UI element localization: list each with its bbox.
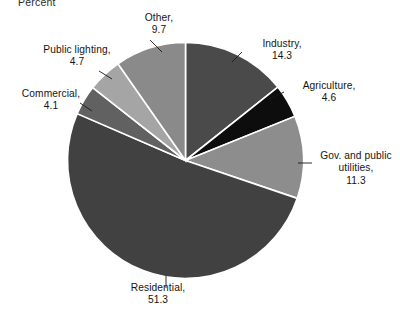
slice-label-gov-and-public-utilities: Gov. and public utilities, 11.3 xyxy=(314,150,398,187)
slice-label-gov-name-2: utilities, xyxy=(314,162,398,174)
slice-label-public-lighting-value: 4.7 xyxy=(26,56,128,68)
slice-label-public-lighting-name: Public lighting, xyxy=(26,44,128,56)
slice-label-commercial-name: Commercial, xyxy=(8,88,94,100)
slice-label-agriculture-value: 4.6 xyxy=(286,92,372,104)
slice-label-gov-value: 11.3 xyxy=(314,175,398,187)
slice-label-other-value: 9.7 xyxy=(126,24,192,36)
slice-label-other-name: Other, xyxy=(126,12,192,24)
slice-label-residential-name: Residential, xyxy=(112,282,204,294)
slice-label-other: Other, 9.7 xyxy=(126,12,192,37)
slice-label-public-lighting: Public lighting, 4.7 xyxy=(26,44,128,69)
slice-label-industry-name: Industry, xyxy=(244,38,320,50)
slice-label-gov-name-1: Gov. and public xyxy=(314,150,398,162)
chart-canvas: Percent Other, 9.7 Public lighting, 4.7 … xyxy=(0,0,400,315)
slice-label-agriculture-name: Agriculture, xyxy=(286,80,372,92)
slice-label-industry-value: 14.3 xyxy=(244,50,320,62)
slice-label-residential-value: 51.3 xyxy=(112,294,204,306)
slice-label-commercial: Commercial, 4.1 xyxy=(8,88,94,113)
pie-slices xyxy=(68,43,304,279)
slice-label-residential: Residential, 51.3 xyxy=(112,282,204,307)
slice-label-industry: Industry, 14.3 xyxy=(244,38,320,63)
slice-label-commercial-value: 4.1 xyxy=(8,100,94,112)
slice-label-agriculture: Agriculture, 4.6 xyxy=(286,80,372,105)
